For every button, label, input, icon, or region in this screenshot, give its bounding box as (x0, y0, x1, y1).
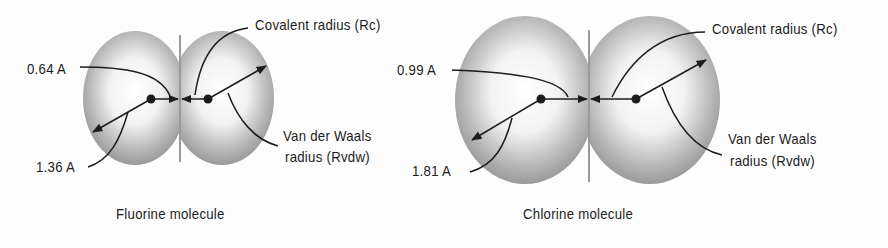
fluorine-caption: Fluorine molecule (116, 205, 225, 222)
fluorine-atom-left (83, 31, 187, 165)
chlorine-vdw-value: 1.81 A (412, 162, 451, 179)
chlorine-atom-right (580, 16, 720, 184)
chlorine-molecule (452, 16, 722, 184)
chlorine-caption: Chlorine molecule (523, 205, 633, 222)
fluorine-vdw-value: 1.36 A (36, 158, 75, 175)
fluorine-atom-right (170, 31, 274, 165)
fluorine-covalent-value: 0.64 A (27, 60, 66, 77)
fluorine-molecule (80, 28, 278, 167)
fluorine-covalent-label: Covalent radius (Rc) (255, 16, 381, 33)
chlorine-atom-left (455, 16, 595, 184)
fluorine-vdw-label-2: radius (Rvdw) (285, 148, 370, 165)
chlorine-vdw-label-1: Van der Waals (728, 130, 817, 147)
chlorine-covalent-value: 0.99 A (397, 61, 436, 78)
fluorine-vdw-label-1: Van der Waals (283, 127, 372, 144)
chlorine-covalent-label: Covalent radius (Rc) (712, 20, 838, 37)
chlorine-vdw-label-2: radius (Rvdw) (730, 152, 815, 169)
